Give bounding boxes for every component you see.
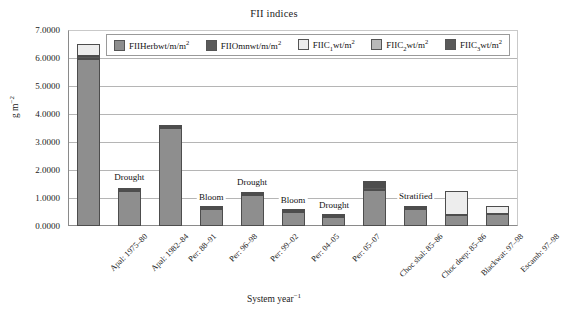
legend-swatch-fiic1wt [298,39,309,50]
bar-annotation: Drought [112,172,146,182]
legend-item-fiiherbwt[interactable]: FIIHerbwt/m/m2 [114,39,189,51]
x-tick-label: Per: 99–02 [269,232,301,264]
x-tick-label: Per: 04–05 [309,232,341,264]
chart-title: FII indices [0,8,548,19]
gridline-6 [69,58,517,59]
x-axis-title: System year−1 [0,292,548,304]
legend-label-fiic3wt: FIIC3wt/m2 [460,38,502,52]
x-tick-label: Per: 96–98 [228,232,260,264]
legend-label-fiic2wt: FIIC2wt/m2 [386,38,428,52]
legend-item-fiic3wt[interactable]: FIIC3wt/m2 [445,38,502,52]
legend-swatch-fiic2wt [371,39,382,50]
x-tick-label: Choc shal: 85–86 [398,232,445,279]
x-axis-tick-labels: Apal: 1975–80Apal: 1982–84Per: 88–91Per:… [0,226,548,286]
legend-label-fiic1wt: FIIC1wt/m2 [313,38,355,52]
bar-annotation: Bloom [197,192,226,202]
legend-item-fiiomnwt[interactable]: FIIOmnwt/m/m2 [206,39,281,51]
y-tick-label: 4.0000 [35,109,60,119]
gridline-2 [69,170,517,171]
y-tick-label: 3.0000 [35,137,60,147]
bar-annotation: Drought [317,200,351,210]
gridline-4 [69,114,517,115]
x-axis-title-exponent: −1 [294,292,301,300]
y-tick-label: 1.0000 [35,193,60,203]
x-tick-label: Per: 05–07 [350,232,382,264]
x-axis-title-text: System year [247,294,294,304]
chart-legend: FIIHerbwt/m/m2 FIIOmnwt/m/m2 FIIC1wt/m2 … [106,34,510,56]
legend-swatch-fiiomnwt [206,40,217,51]
legend-item-fiic2wt[interactable]: FIIC2wt/m2 [371,38,428,52]
legend-swatch-fiiherbwt [114,40,125,51]
legend-label-fiiomnwt: FIIOmnwt/m/m2 [221,39,281,51]
y-axis-tick-labels: 7.0000 6.0000 5.0000 4.0000 3.0000 2.000… [0,30,64,226]
legend-item-fiic1wt[interactable]: FIIC1wt/m2 [298,38,355,52]
legend-swatch-fiic3wt [445,39,456,50]
legend-label-fiiherbwt: FIIHerbwt/m/m2 [129,39,189,51]
x-tick-label: Apal: 1975–80 [109,232,150,273]
bar-annotation: Stratified [397,191,435,201]
gridline-5 [69,86,517,87]
y-tick-label: 7.0000 [35,25,60,35]
bar-annotation: Drought [235,177,269,187]
y-tick-label: 5.0000 [35,81,60,91]
gridline-3 [69,142,517,143]
x-tick-label: Apal: 1982–84 [150,232,191,273]
bar-annotation: Bloom [279,195,308,205]
y-tick-label: 2.0000 [35,165,60,175]
x-tick-label: Per: 88–91 [187,232,219,264]
y-tick-label: 6.0000 [35,53,60,63]
